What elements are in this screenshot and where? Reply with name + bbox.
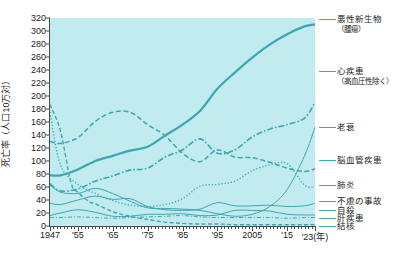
series-line <box>50 112 315 206</box>
y-tick-mark <box>46 44 50 45</box>
legend-item-label: 結核 <box>337 221 355 231</box>
death-rate-line-chart: 死亡率（人口10万対） 0204060801001201401601802002… <box>0 0 400 254</box>
x-tick-mark-minor <box>189 226 190 229</box>
series-line <box>50 127 315 216</box>
x-tick-label: '15 <box>281 230 293 240</box>
x-tick-label: 1947 <box>40 230 60 240</box>
x-tick-mark-minor <box>116 226 117 229</box>
x-tick-mark-minor <box>203 226 204 229</box>
x-tick-mark-minor <box>88 226 89 229</box>
x-tick-mark-minor <box>144 226 145 229</box>
x-tick-mark-major <box>148 226 149 231</box>
x-tick-mark-major <box>50 226 51 231</box>
x-tick-mark-minor <box>67 226 68 229</box>
x-tick-mark-minor <box>224 226 225 229</box>
x-tick-mark-minor <box>235 226 236 229</box>
x-tick-mark-minor <box>130 226 131 229</box>
x-tick-label: '75 <box>142 230 154 240</box>
x-tick-mark-minor <box>85 226 86 229</box>
legend-item-label: 老衰 <box>337 122 355 132</box>
x-tick-mark-minor <box>60 226 61 229</box>
series-line <box>50 216 315 219</box>
x-tick-mark-minor <box>231 226 232 229</box>
y-tick-mark <box>46 200 50 201</box>
x-tick-mark-minor <box>102 226 103 229</box>
x-tick-mark-minor <box>120 226 121 229</box>
legend-item-label: 肺炎 <box>337 180 355 190</box>
x-tick-mark-minor <box>221 226 222 229</box>
legend-leader-line <box>319 127 336 128</box>
x-tick-mark-minor <box>301 226 302 229</box>
y-tick-mark <box>46 18 50 19</box>
x-tick-mark-minor <box>312 226 313 229</box>
x-tick-mark-minor <box>109 226 110 229</box>
x-tick-label: 2005 <box>242 230 262 240</box>
x-tick-mark-minor <box>280 226 281 229</box>
series-lines <box>50 18 315 226</box>
x-tick-mark-minor <box>242 226 243 229</box>
x-tick-mark-major <box>78 226 79 231</box>
x-tick-mark-minor <box>123 226 124 229</box>
x-tick-mark-minor <box>176 226 177 229</box>
x-tick-mark-major <box>287 226 288 231</box>
x-tick-mark-minor <box>162 226 163 229</box>
x-tick-label: '65 <box>107 230 119 240</box>
x-tick-mark-minor <box>277 226 278 229</box>
x-tick-mark-minor <box>141 226 142 229</box>
x-tick-mark-minor <box>169 226 170 229</box>
legend-item-sublabel: （高血圧性除く） <box>337 77 393 88</box>
x-tick-mark-minor <box>57 226 58 229</box>
legend-leader-line <box>319 160 336 161</box>
plot-area: 0204060801001201401601802002202402602803… <box>50 18 315 226</box>
x-tick-mark-minor <box>106 226 107 229</box>
x-tick-mark-minor <box>308 226 309 229</box>
x-tick-mark-minor <box>99 226 100 229</box>
x-tick-mark-minor <box>259 226 260 229</box>
x-tick-mark-minor <box>210 226 211 229</box>
x-tick-mark-minor <box>71 226 72 229</box>
x-tick-mark-minor <box>179 226 180 229</box>
legend-leader-line <box>319 19 336 20</box>
x-tick-mark-minor <box>291 226 292 229</box>
x-tick-mark-minor <box>273 226 274 229</box>
y-tick-mark <box>46 122 50 123</box>
y-tick-mark <box>46 148 50 149</box>
x-tick-mark-major <box>217 226 218 231</box>
x-tick-mark-minor <box>74 226 75 229</box>
x-tick-mark-major <box>113 226 114 231</box>
x-tick-mark-minor <box>249 226 250 229</box>
x-tick-mark-minor <box>245 226 246 229</box>
x-tick-mark-minor <box>81 226 82 229</box>
series-line <box>50 196 315 210</box>
y-tick-mark <box>46 174 50 175</box>
x-tick-mark-minor <box>165 226 166 229</box>
x-tick-mark-minor <box>155 226 156 229</box>
legend: 悪性新生物（腫瘍）心疾患（高血圧性除く）老衰脳血管疾患肺炎不慮の事故自殺肝疾患結… <box>319 0 400 254</box>
legend-item-label: 脳血管疾患 <box>337 155 382 165</box>
x-tick-mark-minor <box>294 226 295 229</box>
series-line <box>50 103 315 192</box>
x-tick-mark-minor <box>186 226 187 229</box>
x-tick-mark-major <box>183 226 184 231</box>
x-tick-mark-minor <box>200 226 201 229</box>
legend-leader-line <box>319 210 336 211</box>
y-tick-mark <box>46 70 50 71</box>
x-tick-mark-major <box>315 226 316 231</box>
x-tick-mark-minor <box>284 226 285 229</box>
x-tick-mark-minor <box>64 226 65 229</box>
x-tick-mark-minor <box>172 226 173 229</box>
x-tick-mark-minor <box>305 226 306 229</box>
y-tick-mark <box>46 135 50 136</box>
x-tick-mark-minor <box>238 226 239 229</box>
legend-leader-line <box>319 71 336 72</box>
x-tick-mark-minor <box>134 226 135 229</box>
x-tick-mark-minor <box>256 226 257 229</box>
series-line <box>50 25 315 176</box>
x-tick-mark-minor <box>228 226 229 229</box>
legend-item: 心疾患（高血圧性除く） <box>337 66 393 87</box>
x-tick-mark-minor <box>151 226 152 229</box>
legend-item: 結核 <box>337 221 355 232</box>
legend-leader-line <box>319 185 336 186</box>
x-tick-mark-minor <box>53 226 54 229</box>
y-axis-title: 死亡率（人口10万対） <box>0 26 13 216</box>
